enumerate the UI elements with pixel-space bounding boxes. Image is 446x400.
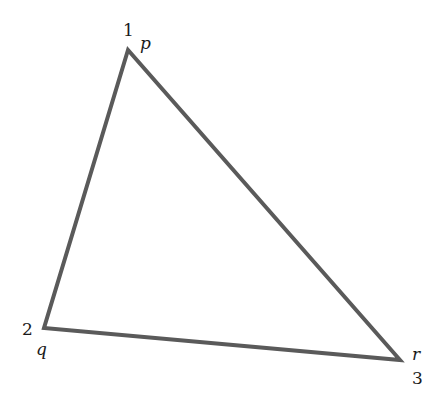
vertex-q-label: q — [36, 339, 47, 359]
vertex-r-label: r — [412, 344, 421, 364]
triangle-pqr — [44, 50, 400, 360]
vertex-3-index-label: 3 — [412, 368, 423, 388]
triangle-diagram: 1 q p 2 q r 3 — [0, 0, 446, 400]
vertex-2-index-label: 2 — [22, 319, 33, 339]
vertex-p-label: p — [140, 33, 151, 53]
vertex-1-index-label: 1 — [123, 20, 134, 40]
